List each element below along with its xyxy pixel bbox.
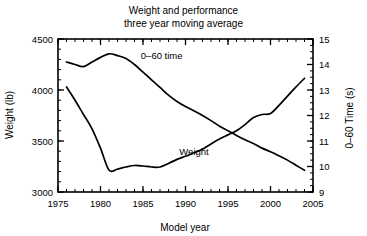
x-tick-label: 1985 [132, 198, 153, 209]
chart-title-line-1: Weight and performance [129, 5, 239, 16]
y-axis-label: Weight (lb) [4, 91, 15, 139]
chart-title-line-2: three year moving average [124, 18, 243, 29]
series-label-1: Weight [179, 146, 209, 157]
y2-tick-label: 15 [319, 34, 330, 45]
chart-canvas: 1975198019851990199520002005300035004000… [0, 0, 367, 236]
y2-tick-label: 11 [319, 136, 329, 147]
y2-tick-label: 10 [319, 161, 330, 172]
x-tick-label: 1975 [47, 198, 68, 209]
y2-tick-label: 13 [319, 85, 330, 96]
y2-tick-label: 9 [319, 187, 324, 198]
x-tick-label: 2005 [302, 198, 323, 209]
x-axis-label: Model year [160, 222, 210, 233]
y-tick-label: 3000 [32, 187, 53, 198]
chart-root: 1975198019851990199520002005300035004000… [32, 34, 330, 210]
y2-tick-label: 14 [319, 59, 330, 70]
plot-frame [58, 39, 313, 192]
series-label-2: 0–60 time [141, 50, 183, 61]
y2-axis-label: 0–60 Time (s) [344, 87, 355, 148]
chart-figure: 1975198019851990199520002005300035004000… [0, 0, 367, 236]
y-tick-label: 4000 [32, 85, 53, 96]
x-tick-label: 1980 [90, 198, 111, 209]
x-tick-label: 1995 [217, 198, 238, 209]
y2-tick-label: 12 [319, 110, 330, 121]
y-tick-label: 4500 [32, 34, 53, 45]
x-tick-label: 1990 [175, 198, 196, 209]
series-line-1 [67, 78, 305, 171]
x-tick-label: 2000 [260, 198, 281, 209]
y-tick-label: 3500 [32, 136, 53, 147]
